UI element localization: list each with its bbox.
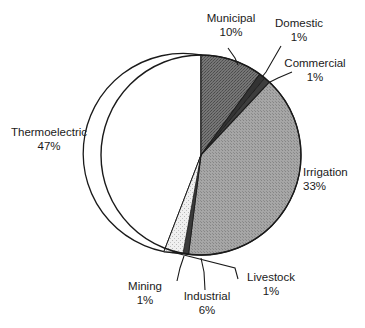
- pie-label-industrial-name: Industrial: [184, 290, 231, 302]
- leader-line-industrial: [201, 258, 205, 290]
- pie-label-irrigation-name: Irrigation: [303, 166, 348, 178]
- pie-label-industrial-pct: 6%: [176, 304, 238, 318]
- pie-label-commercial-name: Commercial: [284, 57, 345, 69]
- pie-label-livestock: Livestock 1%: [240, 271, 302, 298]
- pie-label-mining-pct: 1%: [116, 294, 174, 308]
- pie-label-commercial: Commercial 1%: [272, 57, 358, 84]
- pie-label-municipal: Municipal 10%: [196, 12, 266, 39]
- leader-line-mining: [177, 256, 184, 281]
- pie-label-industrial: Industrial 6%: [176, 290, 238, 317]
- pie-label-thermoelectric: Thermoelectric 47%: [2, 126, 96, 153]
- pie-label-irrigation: Irrigation 33%: [303, 166, 365, 193]
- pie-label-thermoelectric-pct: 47%: [2, 140, 96, 154]
- pie-chart-graphic: [0, 0, 365, 328]
- pie-label-mining-name: Mining: [128, 280, 162, 292]
- pie-label-livestock-pct: 1%: [240, 285, 302, 299]
- pie-label-municipal-name: Municipal: [207, 12, 256, 24]
- pie-chart: Municipal 10% Domestic 1% Commercial 1% …: [0, 0, 365, 328]
- pie-label-domestic: Domestic 1%: [268, 17, 330, 44]
- pie-label-mining: Mining 1%: [116, 280, 174, 307]
- pie-label-livestock-name: Livestock: [247, 271, 295, 283]
- pie-label-domestic-pct: 1%: [268, 31, 330, 45]
- pie-label-irrigation-pct: 33%: [303, 180, 365, 194]
- leader-line-livestock: [172, 252, 238, 279]
- pie-label-commercial-pct: 1%: [272, 71, 358, 85]
- pie-label-municipal-pct: 10%: [196, 26, 266, 40]
- pie-label-thermoelectric-name: Thermoelectric: [11, 126, 87, 138]
- pie-label-domestic-name: Domestic: [275, 17, 323, 29]
